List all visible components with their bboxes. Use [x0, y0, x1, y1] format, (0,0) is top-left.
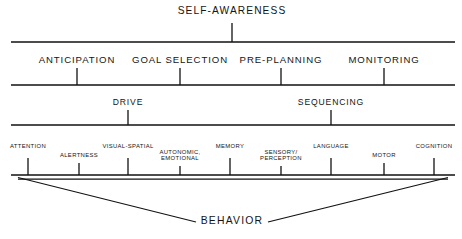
- node-language: LANGUAGE: [313, 143, 349, 149]
- node-label-monitoring: MONITORING: [348, 54, 419, 65]
- node-sensory-perception: SENSORY/ PERCEPTION: [260, 149, 302, 162]
- node-label-autonomic-emotional: AUTONOMIC,: [159, 149, 200, 155]
- node-alertness: ALERTNESS: [60, 152, 98, 158]
- node-label-behavior: BEHAVIOR: [201, 215, 264, 226]
- node-label-visual-spatial: VISUAL-SPATIAL: [102, 143, 153, 149]
- node-label-autonomic-emotional-line2: EMOTIONAL: [159, 155, 200, 161]
- node-label-goal-selection: GOAL SELECTION: [132, 54, 228, 65]
- node-label-sequencing: SEQUENCING: [298, 97, 364, 107]
- node-drive: DRIVE: [113, 98, 144, 107]
- node-label-pre-planning: PRE-PLANNING: [240, 54, 323, 65]
- node-visual-spatial: VISUAL-SPATIAL: [102, 143, 153, 149]
- node-sequencing: SEQUENCING: [298, 98, 364, 107]
- node-motor: MOTOR: [372, 152, 396, 158]
- funnel-left-diagonal: [18, 178, 196, 223]
- node-label-attention: ATTENTION: [10, 143, 46, 149]
- funnel-right-diagonal: [268, 178, 448, 223]
- node-label-motor: MOTOR: [372, 152, 396, 158]
- node-label-cognition: COGNITION: [416, 143, 453, 149]
- node-anticipation: ANTICIPATION: [39, 55, 116, 65]
- node-autonomic-emotional: AUTONOMIC, EMOTIONAL: [159, 149, 200, 162]
- node-label-alertness: ALERTNESS: [60, 152, 98, 158]
- node-self-awareness: SELF-AWARENESS: [178, 6, 287, 17]
- diagram-lines-layer: [0, 0, 462, 239]
- node-behavior: BEHAVIOR: [201, 215, 264, 226]
- node-label-drive: DRIVE: [113, 97, 144, 107]
- node-attention: ATTENTION: [10, 143, 46, 149]
- node-monitoring: MONITORING: [348, 55, 419, 65]
- node-label-memory: MEMORY: [216, 143, 245, 149]
- node-goal-selection: GOAL SELECTION: [132, 55, 228, 65]
- node-pre-planning: PRE-PLANNING: [240, 55, 323, 65]
- node-label-anticipation: ANTICIPATION: [39, 54, 116, 65]
- node-cognition: COGNITION: [416, 143, 453, 149]
- node-label-language: LANGUAGE: [313, 143, 349, 149]
- node-memory: MEMORY: [216, 143, 245, 149]
- node-label-sensory-perception: SENSORY/: [264, 149, 297, 155]
- node-label-sensory-perception-line2: PERCEPTION: [260, 155, 302, 161]
- diagram-canvas: SELF-AWARENESS ANTICIPATION GOAL SELECTI…: [0, 0, 462, 239]
- node-label-self-awareness: SELF-AWARENESS: [178, 5, 287, 16]
